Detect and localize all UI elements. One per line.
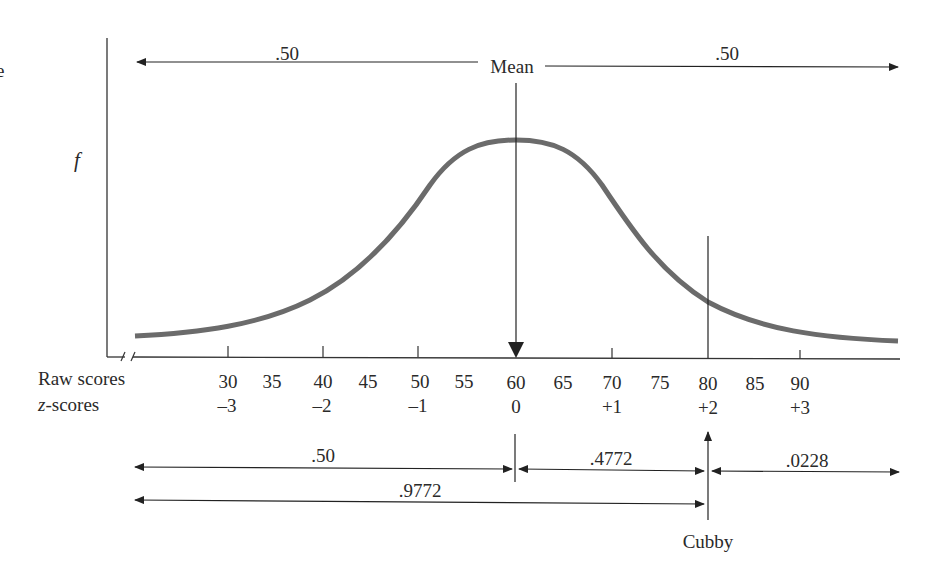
cropped-edge-text: e (0, 61, 4, 80)
raw-tick: 55 (455, 372, 474, 391)
area-arrow-right (712, 471, 899, 472)
area-label-right-of-cubby: .0228 (786, 451, 829, 470)
top-right-arrow (545, 66, 898, 67)
raw-tick: 45 (359, 372, 378, 391)
raw-tick: 50 (411, 372, 430, 391)
raw-tick: 75 (651, 373, 670, 392)
raw-tick: 85 (746, 374, 765, 393)
raw-tick: 80 (699, 374, 718, 393)
top-right-area-label: .50 (715, 44, 739, 63)
mean-label: Mean (490, 57, 533, 76)
area-label-left-of-mean: .50 (311, 446, 335, 465)
raw-tick: 35 (263, 372, 282, 391)
z-tick: +2 (698, 398, 718, 417)
cubby-label: Cubby (683, 532, 734, 551)
area-arrow-left (135, 467, 512, 469)
area-label-below-cubby: .9772 (399, 481, 442, 500)
z-tick: +1 (602, 397, 622, 416)
raw-tick: 70 (603, 373, 622, 392)
z-tick: –1 (409, 396, 428, 415)
raw-scores-label: Raw scores (38, 369, 125, 388)
z-tick: –2 (313, 396, 332, 415)
z-tick: +3 (790, 398, 810, 417)
normal-curve-diagram (0, 0, 929, 578)
z-tick: –3 (218, 396, 237, 415)
x-axis (133, 357, 900, 359)
y-axis-label: f (74, 150, 80, 171)
top-left-area-label: .50 (275, 44, 299, 63)
area-label-mean-to-cubby: .4772 (590, 449, 633, 468)
raw-tick: 65 (554, 373, 573, 392)
raw-tick: 60 (507, 373, 526, 392)
z-scores-label: z-scores (38, 395, 99, 414)
raw-tick: 30 (219, 372, 238, 391)
z-tick: 0 (511, 397, 521, 416)
raw-tick: 40 (314, 372, 333, 391)
raw-tick: 90 (791, 374, 810, 393)
area-arrow-middle (519, 469, 704, 471)
